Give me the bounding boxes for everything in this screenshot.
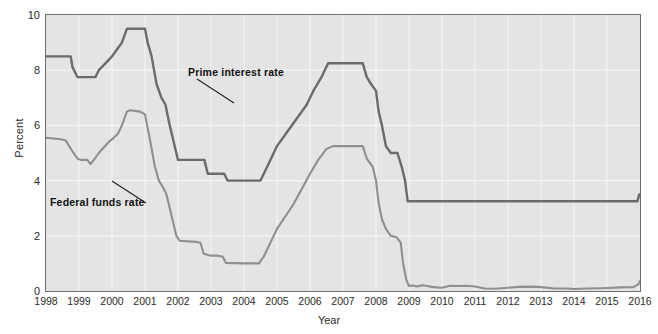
prime-leader-line xyxy=(197,79,234,103)
interest-rate-line-chart: Percent 1086420 199819992000200120022003… xyxy=(0,0,658,334)
y-tick-label-8: 8 xyxy=(10,64,40,76)
y-tick-label-6: 6 xyxy=(10,119,40,131)
x-axis-title: Year xyxy=(0,314,658,326)
x-tick-label-2016: 2016 xyxy=(620,295,658,307)
plot-canvas xyxy=(46,15,640,291)
y-tick-label-4: 4 xyxy=(10,175,40,187)
y-axis-title: Percent xyxy=(13,103,25,173)
annotation-federal-funds-rate: Federal funds rate xyxy=(50,196,145,208)
y-tick-label-10: 10 xyxy=(10,9,40,21)
gridlines xyxy=(46,15,640,291)
plot-area xyxy=(45,14,641,292)
annotation-prime-interest-rate: Prime interest rate xyxy=(188,66,284,78)
y-tick-label-2: 2 xyxy=(10,230,40,242)
